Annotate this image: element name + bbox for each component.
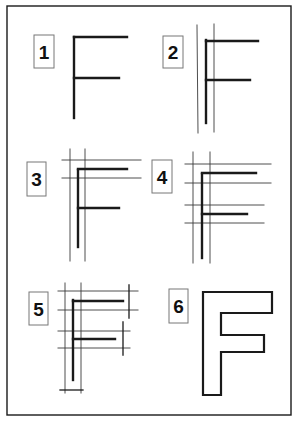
step-number-3: 3 xyxy=(31,169,42,190)
step-number-1: 1 xyxy=(39,42,50,63)
step-number-6: 6 xyxy=(173,296,184,317)
letter-f-construction-diagram: 1 2 3 4 5 6 xyxy=(0,0,293,424)
step-number-5: 5 xyxy=(33,299,44,320)
step-number-4: 4 xyxy=(157,167,168,188)
step-number-2: 2 xyxy=(168,42,179,63)
